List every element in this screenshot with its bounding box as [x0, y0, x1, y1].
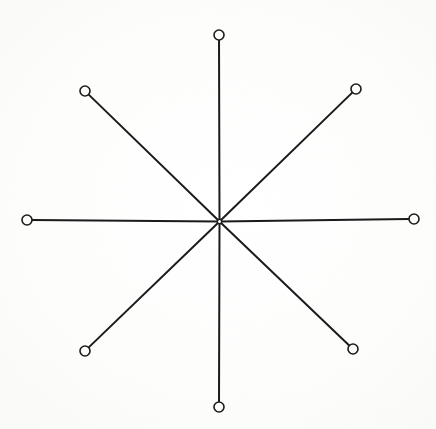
spoke-ne-line — [220, 93, 353, 222]
spoke-w-line — [32, 220, 219, 221]
spoke-ne-endpoint-node — [351, 84, 361, 94]
spoke-nw-endpoint-node — [80, 86, 90, 96]
spoke-s-endpoint-node — [214, 402, 224, 412]
spoke-se-line — [220, 222, 350, 346]
spoke-n-endpoint-node — [214, 30, 224, 40]
spoke-e-line — [220, 219, 409, 221]
radial-spoke-diagram: Eight-spoke radial line figure — [0, 0, 436, 429]
spoke-w-endpoint-node — [22, 215, 32, 225]
spoke-nw-line — [89, 95, 220, 222]
spoke-sw-line — [89, 222, 220, 348]
center-hub-node — [217, 219, 221, 223]
spoke-e-endpoint-node — [409, 214, 419, 224]
spoke-sw-endpoint-node — [80, 346, 90, 356]
spoke-se-endpoint-node — [348, 344, 358, 354]
figure-canvas: Eight-spoke radial line figure — [0, 0, 436, 429]
